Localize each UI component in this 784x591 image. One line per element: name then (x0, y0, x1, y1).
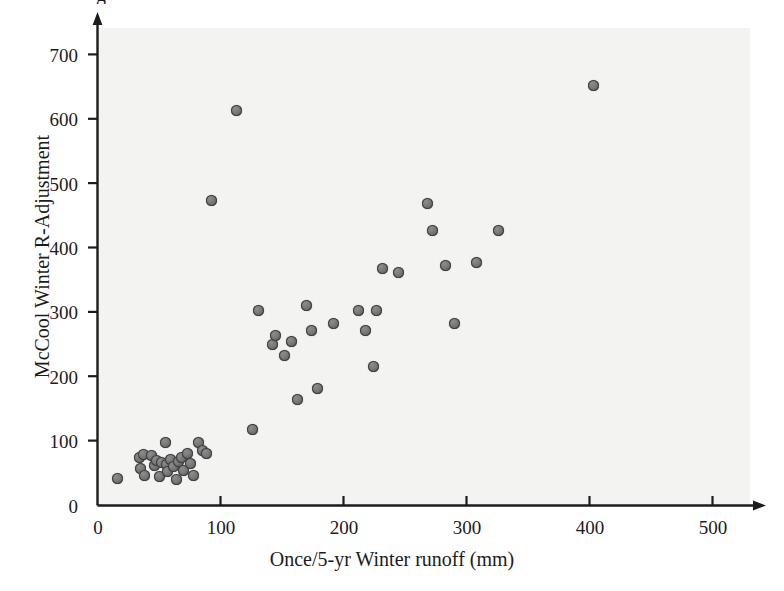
data-point (422, 198, 433, 209)
data-point (279, 350, 290, 361)
xtick-label-200: 200 (313, 518, 375, 537)
data-point (231, 105, 242, 116)
y-axis-title: McCool Winter R-Adjustment (31, 47, 54, 467)
data-point (247, 424, 258, 435)
data-point (139, 470, 150, 481)
data-point (112, 473, 123, 484)
data-point (449, 318, 460, 329)
xtick-label-500: 500 (682, 518, 744, 537)
data-point (328, 318, 339, 329)
xtick-label-400: 400 (559, 518, 621, 537)
xtick-label-100: 100 (190, 518, 252, 537)
data-point (312, 383, 323, 394)
data-point (393, 267, 404, 278)
data-point (360, 325, 371, 336)
data-point (171, 474, 182, 485)
data-point (206, 195, 217, 206)
axes-and-data (0, 0, 784, 591)
xtick-label-0: 0 (67, 518, 129, 537)
axis-lines (93, 12, 766, 510)
data-point (306, 325, 317, 336)
xtick-label-300: 300 (436, 518, 498, 537)
axis-ticks (88, 54, 713, 506)
data-point (588, 80, 599, 91)
data-point (188, 470, 199, 481)
data-point (368, 361, 379, 372)
data-point (471, 257, 482, 268)
data-point (427, 225, 438, 236)
data-point (440, 260, 451, 271)
x-axis-title: Once/5-yr Winter runoff (mm) (0, 548, 784, 571)
scatter-plot-figure: g 0 100 200 3 (0, 0, 784, 591)
ytick-label-0: 0 (16, 497, 78, 516)
